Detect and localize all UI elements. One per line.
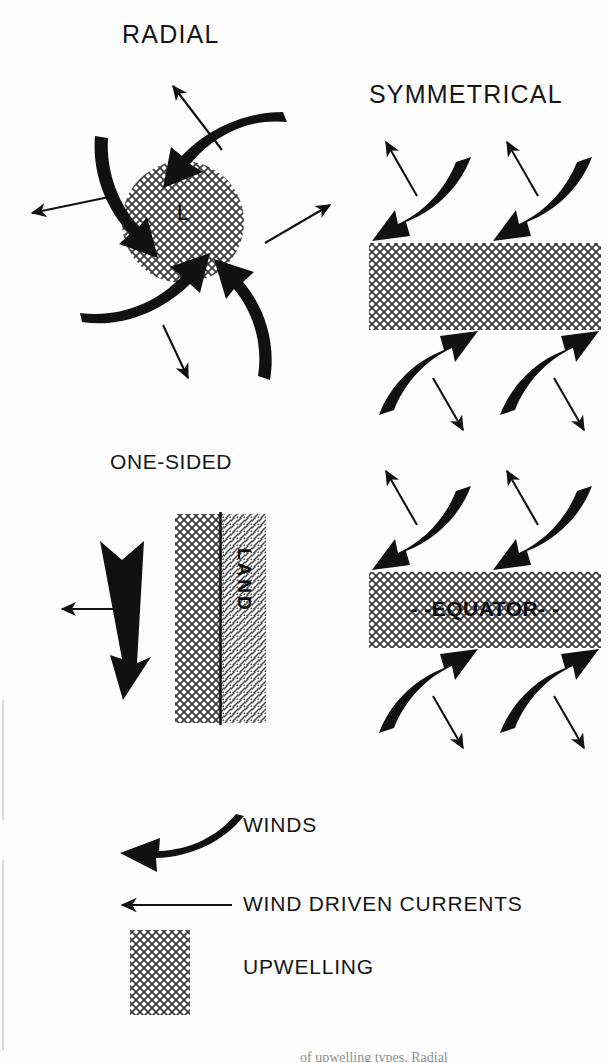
panel-title-radial: RADIAL	[122, 20, 220, 49]
land-region	[221, 512, 267, 725]
panel-title-symmetrical: SYMMETRICAL	[369, 80, 563, 109]
figure-canvas: RADIAL SYMMETRICAL ONE-SIDED L LAND - -E…	[0, 0, 609, 1063]
one-sided-upwelling-region	[175, 514, 220, 723]
legend-upwelling-symbol	[130, 930, 190, 1015]
one-sided-wind-arrow	[100, 541, 151, 700]
panel-title-one-sided: ONE-SIDED	[110, 450, 232, 474]
symmetrical-upwelling-region	[369, 243, 601, 330]
legend-label-currents: WIND DRIVEN CURRENTS	[243, 892, 523, 916]
land-label: LAND	[233, 548, 255, 594]
low-pressure-label: L	[177, 200, 189, 226]
scan-edge-artifact-upper	[2, 700, 4, 820]
scan-edge-artifact-lower	[2, 860, 4, 1050]
legend-label-winds: WINDS	[243, 813, 317, 837]
legend-winds-symbol	[120, 814, 244, 872]
equator-label: - -EQUATOR- -	[369, 597, 601, 621]
figure-caption-fragment: of upwelling types. Radial	[300, 1050, 600, 1062]
legend-label-upwelling: UPWELLING	[243, 955, 374, 979]
